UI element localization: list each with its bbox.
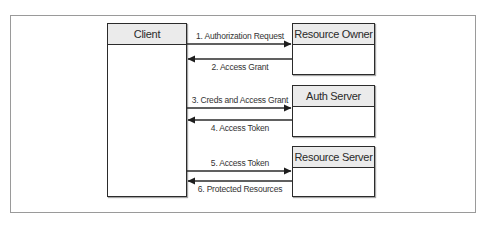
message-label-1: 1. Authorization Request (188, 31, 292, 41)
message-label-2: 2. Access Grant (188, 62, 292, 72)
message-label-6: 6. Protected Resources (188, 184, 292, 194)
message-label-4: 4. Access Token (188, 123, 292, 133)
message-label-3: 3. Creds and Access Grant (188, 95, 292, 105)
message-label-5: 5. Access Token (188, 158, 292, 168)
